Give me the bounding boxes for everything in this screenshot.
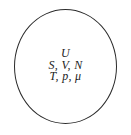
state-variable-line-intensive: T, p, μ [0, 71, 131, 83]
state-variable-stack: U S, V, N T, p, μ [0, 48, 131, 83]
thermodynamic-system-figure: U S, V, N T, p, μ [0, 0, 131, 135]
